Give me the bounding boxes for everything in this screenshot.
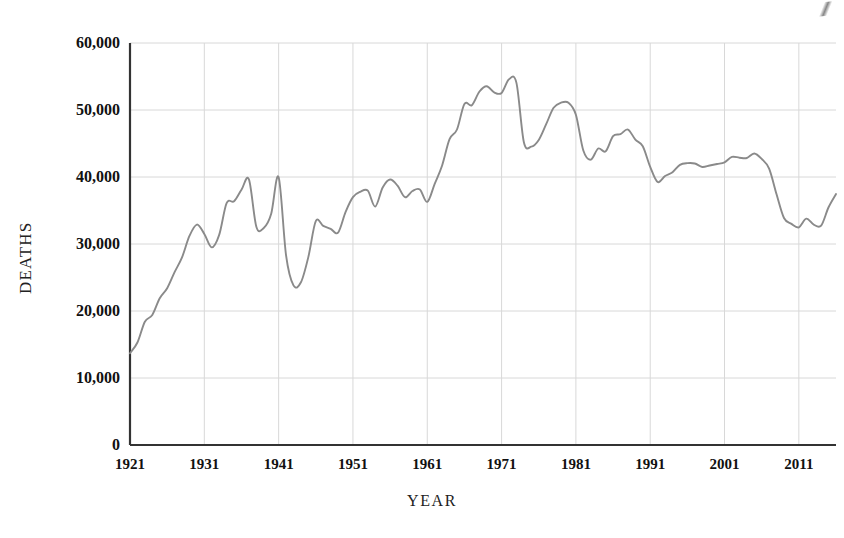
x-tick-label: 1971 — [487, 456, 517, 473]
y-tick-label: 50,000 — [28, 101, 120, 119]
x-tick-label: 1931 — [189, 456, 219, 473]
gridlines — [130, 43, 836, 445]
x-tick-label: 1991 — [635, 456, 665, 473]
x-tick-label: 1981 — [561, 456, 591, 473]
x-tick-label: 1921 — [115, 456, 145, 473]
x-tick-label: 1941 — [264, 456, 294, 473]
y-tick-label: 0 — [28, 436, 120, 454]
x-axis-title-text: YEAR — [407, 492, 457, 509]
y-tick-label: 20,000 — [28, 302, 120, 320]
x-tick-label: 2001 — [710, 456, 740, 473]
y-tick-label: 60,000 — [28, 34, 120, 52]
chart-figure: DEATHS 60,000 50,000 40,000 30,000 20,00… — [0, 0, 844, 538]
y-axis-tick-labels: 60,000 50,000 40,000 30,000 20,000 10,00… — [28, 0, 120, 538]
x-axis-title: YEAR — [0, 492, 844, 510]
y-tick-label: 30,000 — [28, 235, 120, 253]
y-tick-label: 10,000 — [28, 369, 120, 387]
deaths-line-series — [130, 76, 836, 353]
x-tick-label: 1951 — [338, 456, 368, 473]
x-tick-label: 1961 — [412, 456, 442, 473]
x-tick-label: 2011 — [784, 456, 813, 473]
y-tick-label: 40,000 — [28, 168, 120, 186]
